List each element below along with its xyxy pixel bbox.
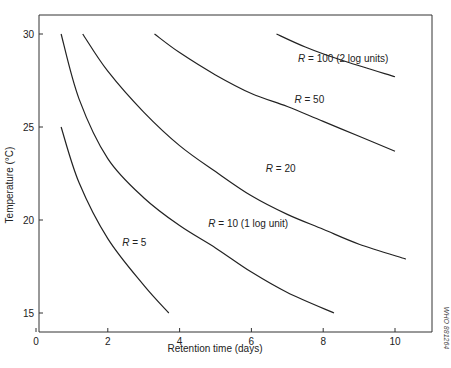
y-axis-title: Temperature (°C) (4, 147, 15, 224)
curve-label: R = 10 (1 log unit) (208, 218, 288, 229)
curve-r-3 (155, 34, 396, 151)
y-axis: 15202530 (23, 29, 43, 319)
y-tick-label: 20 (23, 215, 35, 226)
curve-label: R = 20 (266, 163, 296, 174)
x-axis-title: Retention time (days) (167, 343, 262, 354)
curve-label: R = 50 (294, 94, 324, 105)
credit-label: WHO 881264 (443, 307, 450, 350)
x-tick-label: 8 (320, 336, 326, 347)
x-tick-label: 0 (33, 336, 39, 347)
curves (61, 34, 406, 313)
y-tick-label: 30 (23, 29, 35, 40)
y-tick-label: 15 (23, 308, 35, 319)
curve-label: R = 5 (122, 237, 147, 248)
x-tick-label: 10 (389, 336, 401, 347)
chart-canvas: 0246810 15202530 R = 5R = 10 (1 log unit… (0, 0, 451, 368)
curve-r-0 (61, 127, 169, 313)
x-tick-label: 2 (105, 336, 111, 347)
curve-labels: R = 5R = 10 (1 log unit)R = 20R = 50R = … (122, 53, 388, 248)
curve-label: R = 100 (2 log units) (298, 53, 388, 64)
y-tick-label: 25 (23, 122, 35, 133)
